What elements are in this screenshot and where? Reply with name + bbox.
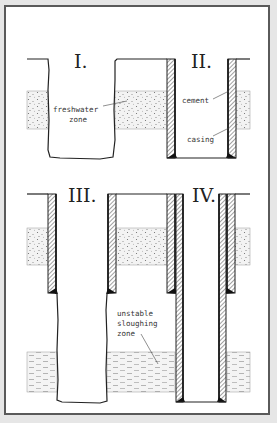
freshwater-zone-band [115,91,167,129]
cement-inner-left-IV [176,194,183,402]
leader-line [213,91,229,99]
sloughing-zone-label-3: zone [117,329,136,338]
sloughing-zone-label: unstable [117,309,154,318]
freshwater-zone-band [236,91,250,129]
panel-III-IV: III. IV. unstable sloughing zone [27,184,250,403]
freshwater-zone-band [116,228,167,265]
well-diagram: I. II. freshwater zone cement casing [0,0,277,423]
freshwater-zone-label: freshwater [53,105,99,114]
cement-outer-left-IV [167,194,175,293]
freshwater-zone-band [235,228,250,265]
casing-label: casing [187,135,214,144]
cement-left-II [167,59,175,158]
cement-left-III [48,194,56,293]
sloughing-zone-label-2: sloughing [117,319,158,328]
panel-I-II: I. II. freshwater zone cement casing [27,50,250,159]
panel-label-IV: IV. [192,184,216,206]
cement-right-II [228,59,236,158]
freshwater-zone-label-2: zone [69,115,88,124]
freshwater-zone-band [27,91,48,129]
sloughing-zone-band [227,352,250,392]
panel-label-II: II. [191,50,212,72]
cement-label: cement [182,96,209,105]
cement-outer-right-IV [227,194,235,293]
panel-label-I: I. [74,50,88,72]
freshwater-zone-band [27,228,48,265]
panel-label-III: III. [68,184,97,206]
leader-line [213,128,229,136]
sloughing-zone-band [107,352,175,392]
sloughing-zone-band [27,352,57,392]
cement-inner-right-IV [219,194,226,402]
cement-right-III [108,194,116,293]
borehole-III-outline [57,294,107,403]
